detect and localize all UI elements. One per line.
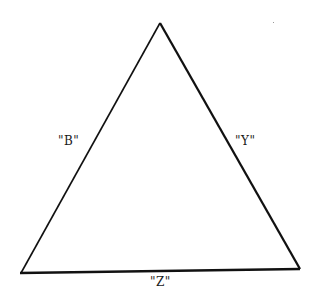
bottom-side: [20, 269, 300, 273]
label-b: "B": [58, 134, 79, 148]
speck: [273, 22, 274, 23]
right-side: [160, 23, 300, 269]
left-side: [21, 23, 160, 273]
triangle-diagram: [0, 0, 315, 305]
label-z: "Z": [150, 275, 171, 289]
label-y: "Y": [235, 134, 255, 148]
